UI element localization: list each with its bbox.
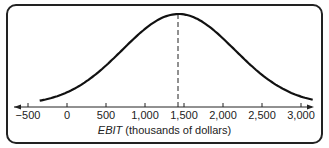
distribution-curve <box>40 14 313 101</box>
x-tick-label: 0 <box>64 109 70 121</box>
x-tick-label: 2,500 <box>248 109 276 121</box>
x-tick-label: −500 <box>16 109 41 121</box>
x-axis-label-italic: EBIT <box>98 124 122 136</box>
x-tick-label: 2,000 <box>209 109 237 121</box>
x-tick-label: 1,000 <box>131 109 159 121</box>
x-axis-ticks <box>28 103 301 107</box>
x-tick-label: 500 <box>97 109 115 121</box>
x-axis-label-rest: (thousands of dollars) <box>125 124 231 136</box>
x-tick-label: 1,500 <box>170 109 198 121</box>
x-tick-label: 3,000 <box>287 109 315 121</box>
x-axis-label: EBIT (thousands of dollars) <box>0 124 329 136</box>
